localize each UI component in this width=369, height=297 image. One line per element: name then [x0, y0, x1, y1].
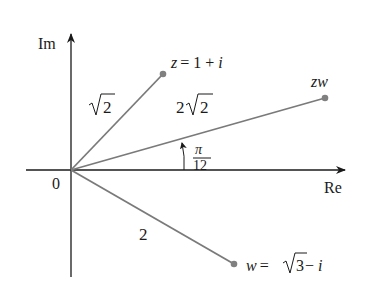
vector-w: [71, 170, 234, 264]
svg-text:2: 2: [103, 98, 112, 117]
point-w: [231, 261, 238, 268]
imag-axis-label: Im: [38, 35, 56, 52]
vector-z: [71, 74, 163, 170]
angle-arc-icon: [182, 143, 184, 170]
point-zw-label: zw: [310, 73, 328, 90]
svg-text:π: π: [195, 142, 203, 157]
point-z-label: z= 1 + i: [170, 54, 223, 71]
svg-text:2: 2: [176, 98, 185, 117]
angle-label: π 12: [193, 142, 211, 173]
svg-text:3: 3: [296, 257, 304, 274]
point-w-label: w= 3 − i: [246, 253, 322, 274]
real-axis-label: Re: [324, 179, 342, 196]
svg-text:− i: − i: [305, 257, 322, 274]
point-z: [160, 71, 167, 78]
complex-plane-diagram: Im Re 0 z= 1 + i zw w= 3 − i 2 2 2 2 π 1…: [0, 0, 369, 297]
svg-text:2: 2: [200, 98, 209, 117]
z-modulus-label: 2: [89, 94, 115, 117]
zw-modulus-label: 2 2: [176, 94, 213, 117]
svg-text:12: 12: [193, 158, 207, 173]
origin-label: 0: [52, 175, 60, 192]
point-zw: [322, 95, 329, 102]
w-modulus-label: 2: [139, 225, 148, 244]
svg-text:w=: w=: [246, 257, 269, 274]
